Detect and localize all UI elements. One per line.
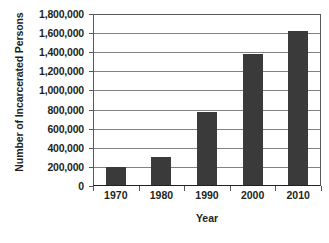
x-axis-tick-mark	[321, 186, 322, 191]
x-axis-tick-label: 1970	[104, 190, 127, 201]
y-axis-tick-label: 600,000	[8, 123, 84, 134]
y-axis-tick-labels: 1,800,0001,600,0001,400,0001,200,0001,00…	[8, 14, 84, 186]
plot-area	[93, 14, 321, 186]
x-axis-tick-label: 2000	[241, 190, 264, 201]
y-axis-tick-label: 800,000	[8, 104, 84, 115]
y-axis-tick-label: 1,400,000	[8, 47, 84, 58]
x-axis-tick-labels: 19701980199020002010	[93, 190, 321, 206]
y-axis-tick-label: 1,800,000	[8, 9, 84, 20]
x-axis-title: Year	[93, 212, 321, 224]
y-axis-tick-label: 200,000	[8, 162, 84, 173]
y-axis-tick-label: 1,600,000	[8, 28, 84, 39]
y-axis-tick-label: 1,200,000	[8, 66, 84, 77]
y-axis-tick-label: 0	[8, 181, 84, 192]
y-axis-tick-label: 400,000	[8, 143, 84, 154]
bar-chart: Number of Incarcerated Persons 1,800,000…	[0, 0, 329, 243]
y-axis-tick-label: 1,000,000	[8, 85, 84, 96]
x-axis-tick-label: 1990	[195, 190, 218, 201]
x-axis-tick-label: 2010	[287, 190, 310, 201]
x-axis-tick-label: 1980	[150, 190, 173, 201]
plot-frame	[93, 14, 321, 186]
